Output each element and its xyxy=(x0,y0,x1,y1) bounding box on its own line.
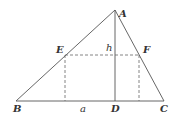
label-a-base: a xyxy=(80,103,86,114)
label-b: B xyxy=(12,103,21,114)
label-a-vertex: A xyxy=(118,8,127,19)
label-f: F xyxy=(142,44,151,55)
label-h: h xyxy=(106,42,112,53)
label-d: D xyxy=(110,103,120,114)
label-e: E xyxy=(55,44,64,55)
side-ac xyxy=(115,10,164,101)
side-ab xyxy=(16,10,115,101)
triangle-diagram: A B C D E F h a xyxy=(0,0,174,125)
label-c: C xyxy=(160,103,168,114)
